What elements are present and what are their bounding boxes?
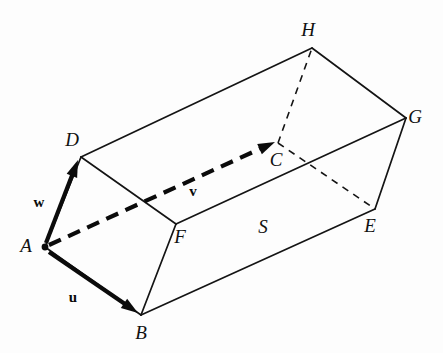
vertex-dot-A (42, 244, 49, 251)
vertex-label-H: H (300, 19, 316, 40)
vertex-label-B: B (135, 322, 147, 343)
vertex-dots-group (42, 244, 49, 251)
vector-label-v: v (189, 183, 197, 199)
vector-label-u: u (69, 289, 77, 305)
diagram-background (0, 0, 443, 353)
parallelepiped-diagram: ABCDEFGH uwv S (0, 0, 443, 353)
vertex-label-G: G (408, 106, 422, 127)
vertex-label-E: E (363, 215, 376, 236)
region-labels-group: S (258, 216, 268, 237)
figure-root: ABCDEFGH uwv S (0, 0, 443, 353)
region-label-S: S (258, 216, 268, 237)
vertex-label-F: F (173, 226, 186, 247)
vector-label-w: w (34, 194, 45, 210)
vertex-label-D: D (64, 129, 79, 150)
vertex-label-C: C (270, 149, 283, 170)
vertex-label-A: A (18, 235, 32, 256)
